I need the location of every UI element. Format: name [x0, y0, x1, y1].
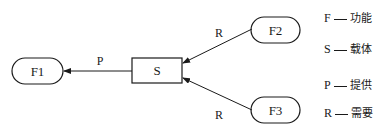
- node-f2: F2: [251, 17, 300, 43]
- legend-value: 提供: [350, 79, 372, 92]
- edge-label-p: P: [97, 54, 104, 68]
- legend-key: S: [324, 42, 331, 56]
- legend-key: R: [324, 106, 332, 120]
- node-f3: F3: [251, 97, 300, 123]
- node-f1: F1: [12, 58, 63, 84]
- legend-item-r: R需要: [324, 106, 373, 121]
- node-f3-label: F3: [269, 103, 283, 118]
- edge-f3-to-s: R: [183, 78, 252, 122]
- node-s: S: [132, 58, 182, 83]
- edge-label-r-top: R: [215, 26, 223, 40]
- edge-f2-to-s: R: [183, 26, 252, 63]
- legend-item-f: F功能: [324, 11, 372, 26]
- dash-divider: [334, 19, 347, 20]
- legend-value: 功能: [350, 12, 372, 25]
- dash-divider: [335, 114, 348, 115]
- legend-item-p: P提供: [324, 78, 372, 93]
- dash-divider: [334, 50, 347, 51]
- legend-value: 需要: [351, 107, 373, 120]
- legend-key: F: [324, 11, 331, 25]
- node-f1-label: F1: [31, 64, 45, 79]
- node-s-label: S: [153, 63, 160, 78]
- legend-item-s: S载体: [324, 42, 372, 57]
- legend-value: 载体: [350, 43, 372, 56]
- edge-s-to-f1: P: [64, 54, 132, 71]
- legend-key: P: [324, 78, 331, 92]
- edge-label-r-bottom: R: [215, 108, 223, 122]
- node-f2-label: F2: [269, 23, 283, 38]
- dash-divider: [334, 86, 347, 87]
